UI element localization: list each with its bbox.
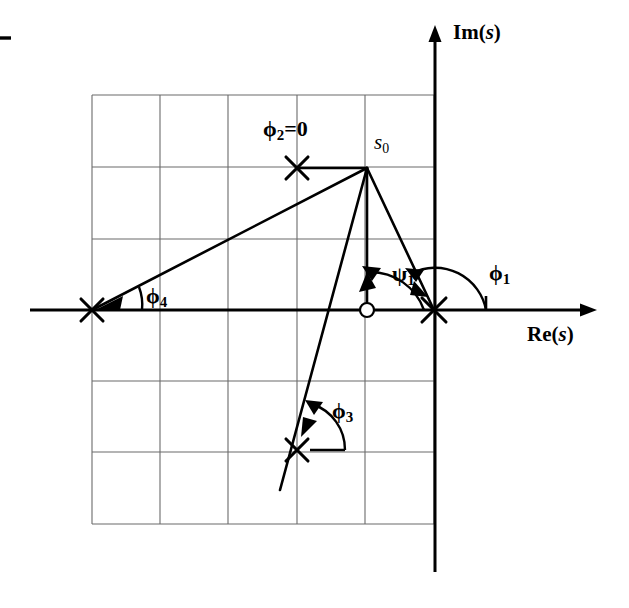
real-axis-arrowhead [580, 304, 597, 317]
angle-label-phi1: ϕ1 [489, 262, 510, 287]
zero-marker-1 [360, 303, 374, 317]
angle-label-phi3: ϕ3 [332, 400, 353, 425]
test-point-label-s0: s0 [374, 132, 389, 155]
imaginary-axis-label: Im(s) [453, 22, 501, 43]
real-axis-label: Re(s) [527, 324, 574, 345]
zero-markers [360, 303, 374, 317]
vector-group [96, 168, 433, 490]
pole-zero-diagram-canvas [0, 0, 629, 608]
vector-to-pole-4 [96, 168, 367, 308]
angle-arc-phi4 [139, 287, 142, 310]
imaginary-axis-arrowhead [429, 25, 442, 42]
angle-label-phi2: ϕ2=0 [263, 118, 308, 143]
pole-zero-figure: s0 ϕ2=0 ϕ1 ψ1 ϕ3 ϕ4 Re(s) Im(s) [0, 0, 629, 608]
arrowhead-pole-3 [301, 417, 317, 437]
angle-label-psi1: ψ1 [392, 263, 415, 288]
imaginary-axis [429, 25, 442, 572]
vector-to-pole-3 [280, 168, 367, 490]
angle-label-phi4: ϕ4 [146, 285, 167, 310]
